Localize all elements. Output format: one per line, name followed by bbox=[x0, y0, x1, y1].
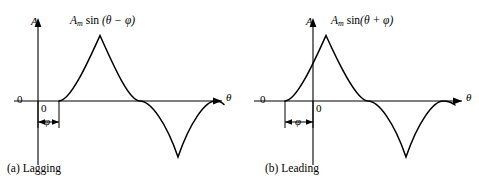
y-axis bbox=[35, 18, 42, 165]
y-axis-label: A bbox=[31, 16, 38, 27]
formula-amplitude: A bbox=[70, 14, 77, 26]
caption-lagging: (a) Lagging bbox=[7, 163, 61, 175]
caption-leading: (b) Leading bbox=[265, 163, 319, 175]
panel-lagging: A θ 0 0 φ Am sin (θ − φ) (a) Lagging bbox=[0, 0, 239, 191]
formula-subscript: m bbox=[338, 19, 344, 28]
formula-amplitude: A bbox=[331, 14, 338, 26]
formula-function: sin bbox=[347, 14, 360, 26]
x-axis-label: θ bbox=[226, 92, 231, 103]
y-axis-label: A bbox=[306, 16, 313, 27]
formula-argument: (θ + φ) bbox=[360, 14, 393, 26]
sine-curve-lagging bbox=[59, 36, 224, 158]
formula-lagging: Am sin (θ − φ) bbox=[70, 15, 135, 28]
y-axis bbox=[310, 18, 317, 165]
formula-function: sin bbox=[86, 14, 99, 26]
formula-argument: (θ − φ) bbox=[102, 14, 135, 26]
sine-phase-figure: A θ 0 0 φ Am sin (θ − φ) (a) Lagging bbox=[0, 0, 479, 191]
phase-label-phi: φ bbox=[295, 116, 301, 127]
phase-label-phi: φ bbox=[44, 116, 50, 127]
formula-subscript: m bbox=[77, 19, 83, 28]
origin-label-inner: 0 bbox=[41, 103, 47, 114]
formula-leading: Am sin(θ + φ) bbox=[331, 15, 393, 28]
origin-label-outer: 0 bbox=[17, 94, 23, 105]
sine-curve-leading bbox=[285, 36, 455, 158]
origin-label-inner: 0 bbox=[316, 103, 322, 114]
origin-label-outer: 0 bbox=[260, 94, 266, 105]
x-axis-label: θ bbox=[466, 92, 471, 103]
panel-leading: A θ 0 0 φ Am sin(θ + φ) (b) Leading bbox=[240, 0, 479, 191]
